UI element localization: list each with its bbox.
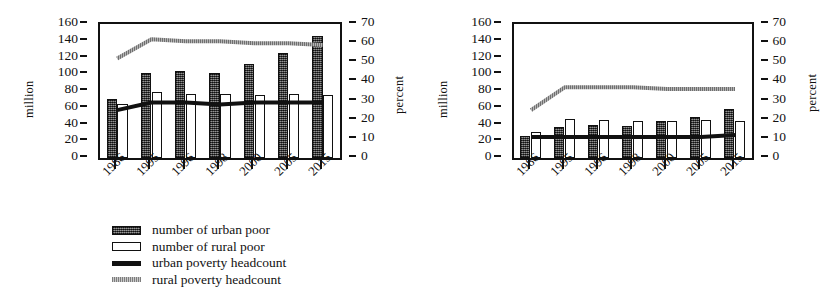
y-tick-mark-left (494, 88, 501, 90)
y-tick-label-left: 140 (58, 32, 78, 46)
y-tick-mark-right (349, 155, 356, 157)
y-tick-mark-right (761, 21, 768, 23)
y-axis-ticks-left: 020406080100120140160 (38, 22, 78, 156)
legend-label: urban poverty headcount (152, 255, 286, 272)
legend-item: number of urban poor (112, 222, 286, 239)
y-tick-mark-right (761, 155, 768, 157)
y-tick-label-right: 70 (773, 15, 787, 29)
y-tick-mark-left (494, 38, 501, 40)
y-tick-mark-left (80, 38, 87, 40)
y-tick-label-left: 0 (71, 149, 78, 163)
y-tick-label-left: 100 (58, 66, 78, 80)
y-tick-label-left: 60 (65, 99, 79, 113)
y-tick-label-right: 50 (361, 54, 375, 68)
x-axis-labels: 1986199519961998200020052015 (98, 160, 338, 210)
y-tick-label-right: 10 (361, 130, 375, 144)
y-tick-mark-left (80, 55, 87, 57)
legend-swatch-uline-icon (112, 261, 141, 266)
y-tick-label-left: 40 (65, 116, 79, 130)
y-tick-label-left: 60 (478, 99, 492, 113)
y-axis-ticks-right: 010203040506070 (348, 22, 388, 156)
y-tick-label-right: 40 (773, 73, 787, 87)
y-tick-mark-right (349, 136, 356, 138)
y-tick-mark-right (761, 117, 768, 119)
chart-area-extreme-poverty: million percent 020406080100120140160 01… (415, 0, 829, 215)
plot-area-poverty (98, 22, 342, 160)
y-tick-mark-left (494, 155, 501, 157)
y-tick-mark-right (349, 117, 356, 119)
y-tick-label-left: 80 (65, 82, 79, 96)
y-tick-mark-right (761, 40, 768, 42)
y-tick-label-left: 100 (471, 66, 491, 80)
y-tick-mark-left (80, 21, 87, 23)
legend-poverty: number of urban poornumber of rural poor… (112, 222, 286, 288)
y-tick-label-left: 160 (471, 15, 491, 29)
y-tick-mark-left (80, 105, 87, 107)
y-tick-mark-left (494, 105, 501, 107)
chart-panel-poverty: million percent 020406080100120140160 01… (0, 0, 415, 307)
y-tick-label-right: 40 (361, 73, 375, 87)
y-tick-label-right: 20 (361, 111, 375, 125)
legend-swatch-rural-icon (112, 242, 141, 251)
chart-panel-extreme-poverty: million percent 020406080100120140160 01… (415, 0, 829, 307)
y-tick-mark-right (349, 59, 356, 61)
y-tick-label-right: 10 (773, 130, 787, 144)
x-axis-labels: 1986199519961998200020052015 (512, 160, 750, 210)
y-tick-label-left: 20 (478, 133, 492, 147)
plot-area-extreme-poverty (512, 22, 754, 160)
y-tick-mark-left (80, 71, 87, 73)
y-tick-label-left: 120 (471, 49, 491, 63)
y-tick-label-right: 60 (773, 34, 787, 48)
y-tick-mark-left (80, 88, 87, 90)
y-tick-mark-left (494, 138, 501, 140)
y-tick-mark-left (494, 122, 501, 124)
y-tick-mark-right (349, 78, 356, 80)
line-rural-headcount (531, 87, 735, 110)
y-tick-label-right: 0 (773, 149, 780, 163)
y-axis-title-right: percent (805, 74, 820, 112)
line-urban-headcount (117, 102, 323, 110)
y-tick-label-left: 160 (58, 15, 78, 29)
y-axis-title-left: million (22, 80, 37, 118)
legend-item: number of rural poor (112, 239, 286, 256)
y-tick-mark-right (761, 78, 768, 80)
legend-swatch-rline-icon (112, 277, 141, 282)
line-urban-headcount (531, 135, 735, 137)
y-tick-mark-right (349, 21, 356, 23)
y-axis-title-left: million (436, 80, 451, 118)
y-tick-mark-right (349, 40, 356, 42)
y-tick-mark-right (349, 98, 356, 100)
legend-item: urban poverty headcount (112, 255, 286, 272)
legend-item: rural poverty headcount (112, 272, 286, 289)
legend-label: number of rural poor (152, 239, 265, 256)
figure-two-panel: million percent 020406080100120140160 01… (0, 0, 829, 307)
y-tick-mark-left (80, 122, 87, 124)
y-tick-mark-right (761, 136, 768, 138)
y-tick-label-left: 80 (478, 82, 492, 96)
line-series-group (100, 24, 340, 158)
y-tick-mark-left (80, 138, 87, 140)
y-tick-label-right: 70 (361, 15, 375, 29)
y-tick-label-right: 0 (361, 149, 368, 163)
y-axis-ticks-right: 010203040506070 (760, 22, 800, 156)
y-tick-label-right: 60 (361, 34, 375, 48)
y-tick-label-right: 30 (361, 92, 375, 106)
y-tick-mark-right (761, 98, 768, 100)
y-tick-label-right: 50 (773, 54, 787, 68)
y-tick-label-right: 20 (773, 111, 787, 125)
y-tick-label-left: 140 (471, 32, 491, 46)
y-tick-label-right: 30 (773, 92, 787, 106)
y-axis-ticks-left: 020406080100120140160 (452, 22, 492, 156)
y-tick-mark-left (494, 55, 501, 57)
line-series-group (514, 24, 752, 158)
y-tick-label-left: 120 (58, 49, 78, 63)
y-tick-label-left: 40 (478, 116, 492, 130)
y-tick-label-left: 20 (65, 133, 79, 147)
y-tick-mark-left (494, 71, 501, 73)
y-tick-mark-right (761, 59, 768, 61)
y-axis-title-right: percent (392, 76, 407, 114)
line-rural-headcount (117, 39, 323, 58)
chart-area-poverty: million percent 020406080100120140160 01… (0, 0, 414, 215)
legend-label: number of urban poor (152, 222, 270, 239)
y-tick-label-left: 0 (485, 149, 492, 163)
